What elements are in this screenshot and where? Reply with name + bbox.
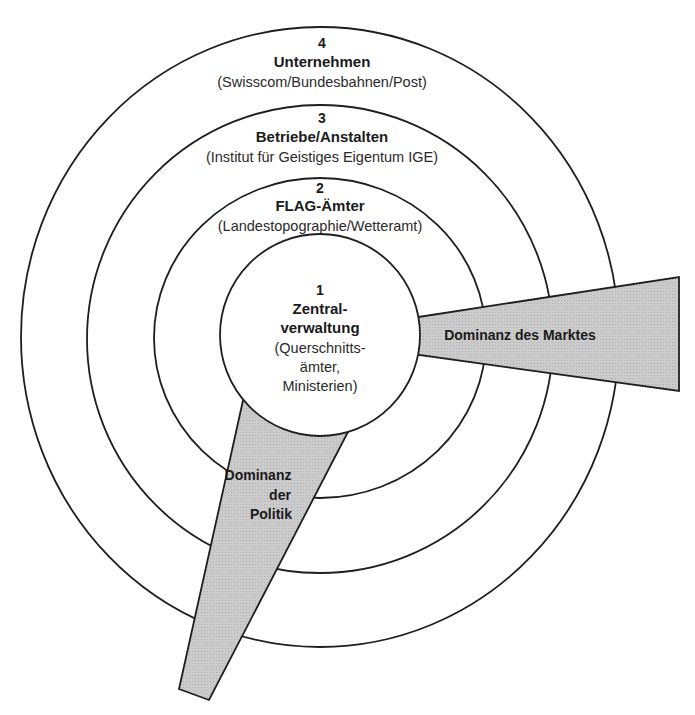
ring-1-sub-line1: (Querschnitts-: [274, 340, 365, 356]
politics-wedge-label-line3: Politik: [250, 506, 292, 522]
politics-wedge-label-line2: der: [269, 487, 291, 503]
ring-1-title-line2: verwaltung: [280, 319, 359, 336]
ring-1-sub-line2: ämter,: [300, 359, 340, 375]
concentric-circles-diagram: 4 Unternehmen (Swisscom/Bundesbahnen/Pos…: [0, 0, 695, 715]
ring-3-number: 3: [318, 110, 326, 126]
ring-4-subtitle: (Swisscom/Bundesbahnen/Post): [217, 74, 427, 90]
politics-wedge-label-line1: Dominanz: [225, 467, 292, 483]
ring-2-number: 2: [316, 180, 324, 196]
ring-1-title-line1: Zentral-: [292, 300, 347, 317]
ring-3-title: Betriebe/Anstalten: [256, 128, 389, 145]
ring-3-subtitle: (Institut für Geistiges Eigentum IGE): [206, 149, 438, 165]
ring-1-sub-line3: Ministerien): [283, 378, 358, 394]
ring-2-title: FLAG-Ämter: [275, 197, 364, 214]
ring-4-number: 4: [318, 35, 326, 51]
market-wedge-label: Dominanz des Marktes: [444, 327, 596, 343]
ring-2-subtitle: (Landestopographie/Wetteramt): [218, 218, 422, 234]
ring-4-title: Unternehmen: [274, 53, 371, 70]
ring-1-number: 1: [316, 282, 324, 298]
